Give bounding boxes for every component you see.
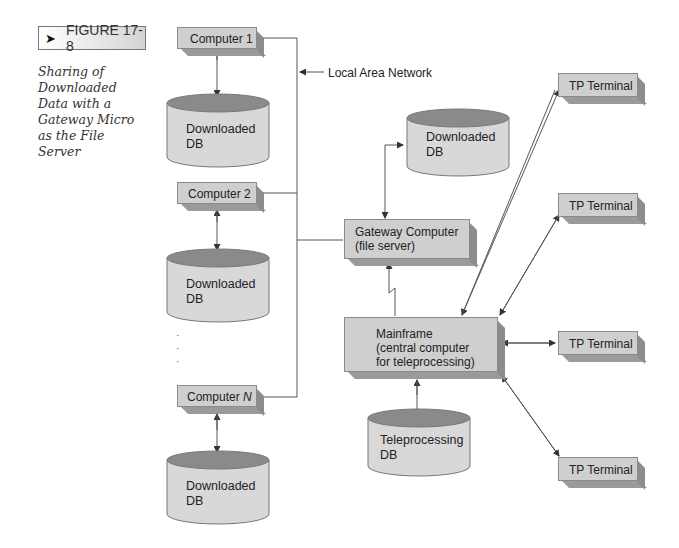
downloaded-db-1: DownloadedDB (166, 93, 270, 169)
tp-terminal-2: TP Terminal (558, 193, 638, 217)
tp-terminal-4: TP Terminal (558, 457, 638, 481)
ellipsis-dot: · (176, 343, 179, 354)
ellipsis-dot: · (176, 356, 179, 367)
tp-terminal-3: TP Terminal (558, 331, 638, 355)
mainframe-node: Mainframe(central computerfor teleproces… (344, 317, 498, 372)
gateway-computer-node: Gateway Computer(file server) (344, 219, 470, 259)
ellipsis-dot: · (176, 330, 179, 341)
computer-2-node: Computer 2 (177, 182, 257, 204)
downloaded-db-2: DownloadedDB (166, 248, 270, 324)
tp-terminal-1: TP Terminal (558, 73, 638, 97)
gateway-computer-label: Gateway Computer(file server) (355, 225, 458, 253)
mainframe-label: Mainframe(central computerfor teleproces… (376, 327, 475, 369)
computer-1-label: Computer 1 (190, 32, 253, 46)
lan-backbone (260, 38, 297, 397)
gateway-downloaded-db: DownloadedDB (406, 108, 510, 178)
teleprocessing-db: TeleprocessingDB (367, 408, 471, 478)
downloaded-db-n: DownloadedDB (166, 450, 270, 526)
computer-1-node: Computer 1 (177, 27, 257, 49)
computer-2-label: Computer 2 (188, 187, 251, 201)
computer-n-label: Computer N (187, 390, 252, 404)
lan-label: Local Area Network (328, 66, 432, 80)
computer-n-node: Computer N (177, 385, 257, 407)
